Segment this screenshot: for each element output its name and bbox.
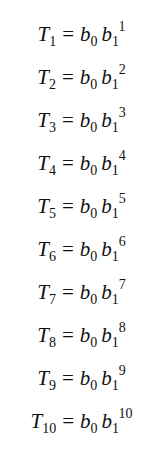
lhs-variable: T [37, 280, 49, 304]
term-a-subscript: 0 [91, 34, 98, 49]
lhs-subscript: 4 [49, 163, 56, 178]
term-a-subscript: 0 [90, 378, 97, 393]
lhs-subscript: 5 [49, 206, 56, 221]
term-b-exponent: 5 [119, 191, 126, 206]
equation-7: T7=b0b17 [0, 280, 163, 307]
term-b-subscript: 1 [112, 421, 118, 436]
term-b-subscript: 1 [112, 163, 119, 178]
lhs-variable: T [37, 323, 49, 347]
lhs-subscript: 8 [49, 335, 56, 350]
equals-sign: = [62, 22, 74, 46]
term-b-subscript: 1 [112, 34, 118, 49]
term-b: b [101, 366, 112, 390]
term-a-subscript: 0 [90, 292, 97, 307]
equation-5: T5=b0b15 [0, 194, 163, 221]
equation-4: T4=b0b14 [0, 151, 163, 178]
term-a-subscript: 0 [90, 249, 97, 264]
equals-sign: = [62, 280, 74, 304]
lhs-variable: T [37, 151, 49, 175]
term-b-subscript: 1 [112, 378, 119, 393]
term-b-exponent: 6 [119, 234, 126, 249]
lhs-variable: T [37, 108, 49, 132]
term-a: b [80, 194, 91, 218]
term-b: b [101, 108, 112, 132]
term-a: b [80, 22, 91, 46]
term-b-exponent: 1 [119, 19, 126, 34]
lhs-subscript: 1 [49, 34, 56, 49]
term-b: b [101, 323, 112, 347]
lhs-variable: T [37, 237, 49, 261]
term-b-exponent: 2 [119, 62, 126, 77]
equation-1: T1=b0b11 [0, 22, 163, 49]
term-b-subscript: 1 [112, 77, 119, 92]
term-b: b [101, 237, 112, 261]
term-b: b [102, 409, 113, 433]
term-b-subscript: 1 [112, 335, 119, 350]
equals-sign: = [62, 108, 74, 132]
lhs-variable: T [30, 409, 42, 433]
equals-sign: = [62, 151, 74, 175]
equation-10: T10=b0b110 [0, 409, 163, 436]
term-b-subscript: 1 [112, 249, 119, 264]
lhs-subscript: 6 [49, 249, 56, 264]
term-a: b [80, 108, 91, 132]
lhs-subscript: 3 [49, 120, 56, 135]
equals-sign: = [62, 323, 74, 347]
term-b: b [102, 22, 113, 46]
term-b-exponent: 7 [119, 277, 126, 292]
term-a-subscript: 0 [90, 335, 97, 350]
term-b-subscript: 1 [112, 206, 119, 221]
lhs-subscript: 9 [49, 378, 56, 393]
term-b-exponent: 10 [119, 406, 133, 421]
term-a: b [80, 237, 91, 261]
term-b: b [101, 280, 112, 304]
equation-9: T9=b0b19 [0, 366, 163, 393]
term-b: b [101, 151, 112, 175]
lhs-variable: T [37, 194, 49, 218]
term-a: b [80, 151, 91, 175]
equation-8: T8=b0b18 [0, 323, 163, 350]
term-b-subscript: 1 [112, 120, 119, 135]
term-a: b [80, 366, 91, 390]
term-b-exponent: 8 [119, 320, 126, 335]
lhs-variable: T [37, 22, 49, 46]
lhs-subscript: 10 [42, 421, 56, 436]
term-a-subscript: 0 [90, 206, 97, 221]
term-a-subscript: 0 [90, 77, 97, 92]
term-a-subscript: 0 [91, 421, 98, 436]
lhs-subscript: 2 [49, 77, 56, 92]
lhs-subscript: 7 [49, 292, 56, 307]
equation-6: T6=b0b16 [0, 237, 163, 264]
equation-2: T2=b0b12 [0, 65, 163, 92]
term-a: b [80, 65, 91, 89]
term-a-subscript: 0 [90, 120, 97, 135]
equals-sign: = [62, 366, 74, 390]
equals-sign: = [62, 194, 74, 218]
term-b-exponent: 4 [119, 148, 126, 163]
term-a: b [80, 280, 91, 304]
lhs-variable: T [37, 65, 49, 89]
term-b-exponent: 3 [119, 105, 126, 120]
term-a: b [80, 323, 91, 347]
term-b-subscript: 1 [112, 292, 119, 307]
term-a-subscript: 0 [90, 163, 97, 178]
term-b: b [101, 194, 112, 218]
equals-sign: = [62, 409, 74, 433]
equation-3: T3=b0b13 [0, 108, 163, 135]
term-a: b [80, 409, 91, 433]
equals-sign: = [62, 65, 74, 89]
equals-sign: = [62, 237, 74, 261]
term-b: b [101, 65, 112, 89]
lhs-variable: T [37, 366, 49, 390]
term-b-exponent: 9 [119, 363, 126, 378]
